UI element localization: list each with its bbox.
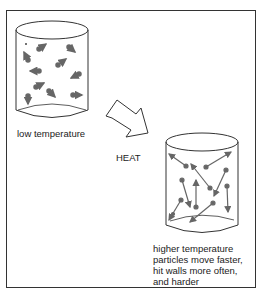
low-temperature-caption: low temperature: [17, 128, 85, 139]
heat-label: HEAT: [116, 152, 141, 163]
caption-line: hit walls more often,: [153, 265, 258, 276]
high-temperature-cylinder: [166, 133, 238, 233]
low-temperature-cylinder: [16, 21, 88, 118]
caption-line: higher temperature: [153, 243, 258, 254]
caption-line: and harder: [153, 276, 258, 287]
fast-particles: [169, 152, 231, 222]
slow-particles: [24, 43, 82, 104]
high-temperature-caption: higher temperature particles move faster…: [153, 243, 258, 287]
heat-arrow-icon: [106, 100, 148, 137]
caption-line: particles move faster,: [153, 254, 258, 265]
